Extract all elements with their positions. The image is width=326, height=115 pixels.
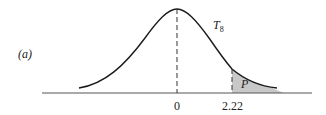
density-plot [0,0,326,115]
area-label: P [241,78,248,90]
tick-label-2.22: 2.22 [222,100,243,112]
shaded-tail-area [232,69,284,93]
curve-label: T8 [213,19,224,36]
curve-label-main: T [213,18,220,32]
t-distribution-figure: (a) T8 P 0 2.22 [0,0,326,115]
tick-label-0: 0 [174,100,180,112]
curve-label-subscript: 8 [220,25,224,34]
panel-label: (a) [18,48,32,60]
